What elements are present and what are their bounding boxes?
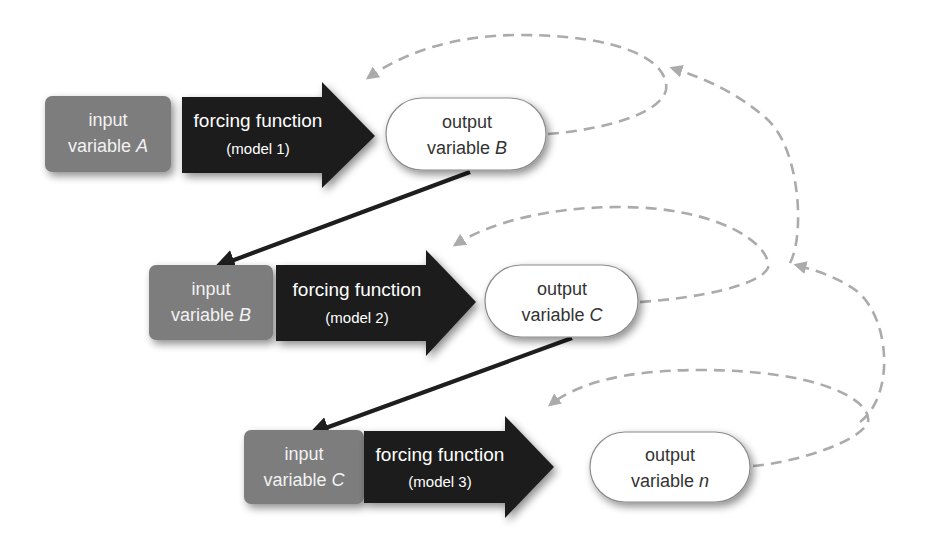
input-label-line2: variable A — [68, 136, 148, 156]
input-label-line1: input — [284, 444, 323, 464]
output-label-line2: variable n — [631, 471, 709, 491]
function-label-line1: forcing function — [376, 444, 505, 465]
output-variable-b-pill[interactable]: output variable B — [386, 98, 546, 170]
output-variable-c-pill[interactable]: output variable C — [485, 265, 638, 337]
forcing-function-model-2-arrow[interactable]: forcing function (model 2) — [276, 250, 476, 356]
connector-c-arrow — [312, 338, 572, 433]
connector-b-arrow — [218, 172, 470, 266]
forcing-function-model-3-arrow[interactable]: forcing function (model 3) — [364, 416, 554, 518]
input-variable-b-box[interactable]: input variable B — [149, 265, 273, 340]
function-label-line2: (model 3) — [408, 473, 471, 490]
input-label-line2: variable C — [263, 470, 345, 490]
input-label-line1: input — [88, 110, 127, 130]
output-label-line2: variable B — [427, 138, 507, 158]
input-variable-c-box[interactable]: input variable C — [244, 430, 364, 504]
output-label-line1: output — [645, 445, 695, 465]
output-label-line2: variable C — [521, 305, 603, 325]
function-label-line2: (model 1) — [226, 140, 289, 157]
feedback-curve-chain-1 — [672, 68, 798, 263]
output-variable-n-pill[interactable]: output variable n — [590, 432, 750, 502]
input-variable-a-box[interactable]: input variable A — [45, 96, 171, 172]
input-label-line1: input — [191, 279, 230, 299]
input-label-line2: variable B — [171, 305, 251, 325]
output-label-line1: output — [442, 112, 492, 132]
function-label-line1: forcing function — [194, 110, 323, 131]
cascade-model-diagram: input variable A forcing function (model… — [0, 0, 929, 537]
output-label-line1: output — [537, 279, 587, 299]
feedback-curve-chain-2 — [796, 265, 884, 422]
function-label-line2: (model 2) — [325, 309, 388, 326]
function-label-line1: forcing function — [293, 279, 422, 300]
stage-1: input variable A forcing function (model… — [45, 82, 546, 188]
stage-3: input variable C forcing function (model… — [244, 416, 750, 518]
forcing-function-model-1-arrow[interactable]: forcing function (model 1) — [182, 82, 375, 188]
